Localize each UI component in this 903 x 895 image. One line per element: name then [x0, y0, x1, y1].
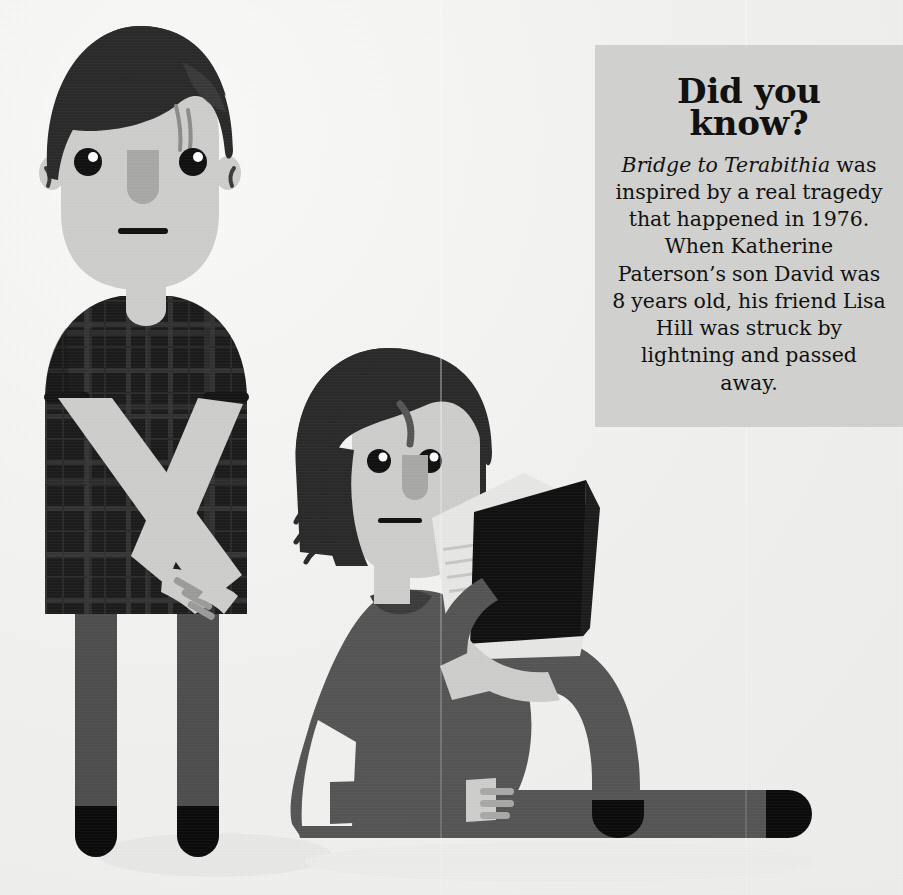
- fact-body-rest: was inspired by a real tragedy that happ…: [612, 153, 886, 395]
- book-title: Bridge to Terabithia: [622, 153, 831, 177]
- fact-box-heading: Did you know?: [611, 75, 887, 140]
- fact-heading-line-2: know?: [611, 107, 887, 139]
- fact-box-body: Bridge to Terabithia was inspired by a r…: [611, 152, 887, 397]
- did-you-know-box: Did you know? Bridge to Terabithia was i…: [595, 45, 903, 427]
- illustration-page: Did you know? Bridge to Terabithia was i…: [0, 0, 903, 895]
